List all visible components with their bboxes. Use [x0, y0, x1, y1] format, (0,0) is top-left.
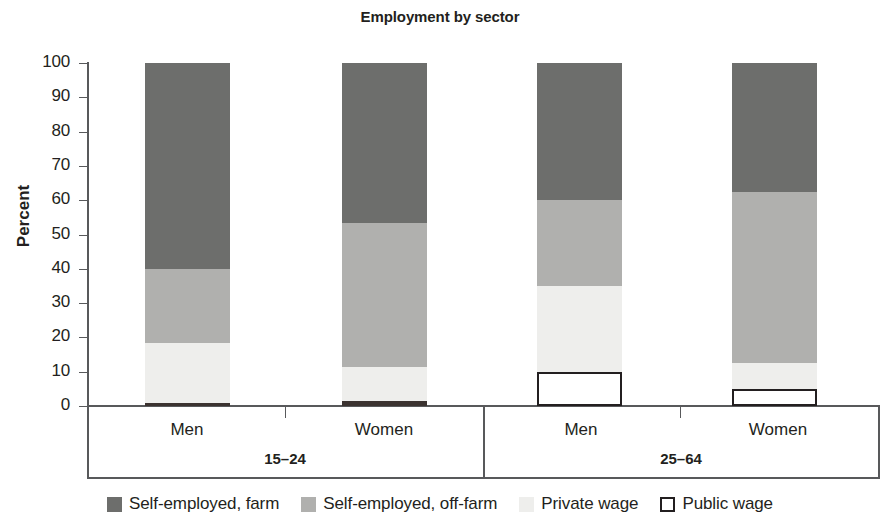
y-axis-tick-label: 90: [22, 86, 70, 106]
y-axis-tick: [79, 372, 88, 373]
legend-swatch-icon: [660, 497, 675, 512]
y-axis-tick: [79, 97, 88, 98]
category-label-men-25-64: Men: [501, 420, 661, 440]
legend-item[interactable]: Self-employed, off-farm: [301, 494, 497, 514]
y-axis-tick: [79, 337, 88, 338]
category-tick: [285, 406, 286, 418]
category-tick: [680, 406, 681, 418]
bar-15-24-men[interactable]: [145, 63, 230, 406]
legend-label: Private wage: [541, 494, 638, 514]
plot-area: [88, 63, 880, 406]
bar-segment: [732, 389, 817, 406]
y-axis-tick-label: 10: [22, 361, 70, 381]
y-axis-tick-label: 80: [22, 121, 70, 141]
bar-segment: [537, 200, 622, 286]
y-axis-tick-label: 30: [22, 292, 70, 312]
bar-segment: [732, 192, 817, 364]
category-label-men-15-24: Men: [107, 420, 267, 440]
group-divider: [483, 406, 485, 479]
category-axis-band: Men Women Men Women 15–24 25–64: [87, 406, 880, 479]
y-axis-tick: [79, 166, 88, 167]
chart-title: Employment by sector: [0, 8, 880, 25]
bar-segment: [145, 343, 230, 403]
bar-segment: [145, 269, 230, 343]
bar-segment: [342, 367, 427, 401]
chart-container: Employment by sector Percent 10090807060…: [0, 0, 880, 527]
y-axis-tick: [79, 269, 88, 270]
bar-segment: [342, 223, 427, 367]
legend-swatch-icon: [301, 497, 316, 512]
y-axis-tick: [79, 200, 88, 201]
bar-segment: [342, 63, 427, 222]
chart-legend: Self-employed, farmSelf-employed, off-fa…: [0, 494, 880, 514]
legend-label: Self-employed, off-farm: [323, 494, 497, 514]
bar-segment: [732, 363, 817, 389]
y-axis-tick: [79, 235, 88, 236]
legend-swatch-icon: [519, 497, 534, 512]
category-label-women-25-64: Women: [698, 420, 858, 440]
bar-segment: [732, 63, 817, 192]
y-axis-tick-label: 0: [22, 395, 70, 415]
group-label-15-24: 15–24: [165, 450, 405, 467]
y-axis-tick-label: 60: [22, 189, 70, 209]
y-axis-tick-label: 40: [22, 258, 70, 278]
legend-item[interactable]: Self-employed, farm: [107, 494, 279, 514]
bar-segment: [537, 372, 622, 406]
y-axis-tick-label: 100: [22, 52, 70, 72]
y-axis-tick: [79, 63, 88, 64]
bar-15-24-women[interactable]: [342, 63, 427, 406]
legend-label: Public wage: [682, 494, 773, 514]
bar-segment: [537, 63, 622, 200]
group-label-25-64: 25–64: [561, 450, 801, 467]
y-axis-tick-label: 20: [22, 326, 70, 346]
y-axis-tick: [79, 303, 88, 304]
legend-item[interactable]: Public wage: [660, 494, 773, 514]
bar-segment: [537, 286, 622, 372]
y-axis-tick: [79, 132, 88, 133]
bar-segment: [145, 63, 230, 269]
bar-25-64-women[interactable]: [732, 63, 817, 406]
legend-item[interactable]: Private wage: [519, 494, 638, 514]
category-label-women-15-24: Women: [304, 420, 464, 440]
legend-label: Self-employed, farm: [129, 494, 279, 514]
y-axis-tick-label: 70: [22, 155, 70, 175]
bar-25-64-men[interactable]: [537, 63, 622, 406]
legend-swatch-icon: [107, 497, 122, 512]
y-axis-tick-label: 50: [22, 224, 70, 244]
